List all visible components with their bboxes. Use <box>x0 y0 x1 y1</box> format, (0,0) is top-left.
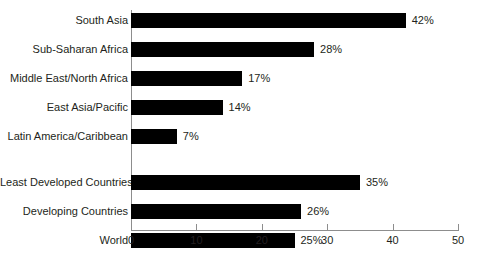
category-label: East Asia/Pacific <box>0 100 128 115</box>
bar-value-label: 7% <box>177 129 199 144</box>
bar-value-label: 17% <box>242 71 270 86</box>
bar-row: 25% <box>131 233 458 248</box>
category-label: Developing Countries <box>0 204 128 219</box>
category-label: Latin America/Caribbean <box>0 129 128 144</box>
x-axis-tick-label: 30 <box>321 234 333 246</box>
bar-value-label: 14% <box>223 100 251 115</box>
x-axis-tick-label: 0 <box>128 234 134 246</box>
bar <box>131 71 242 86</box>
bar <box>131 233 295 248</box>
category-label: World <box>0 233 128 248</box>
bar <box>131 100 223 115</box>
category-label: Middle East/North Africa <box>0 71 128 86</box>
bar <box>131 42 314 57</box>
category-label: Least Developed Countries <box>0 175 128 190</box>
bar <box>131 204 301 219</box>
bar <box>131 13 406 28</box>
plot-area: 42%28%17%14%7%35%26%25% <box>131 10 458 230</box>
bar-row: 35% <box>131 175 458 190</box>
bar-value-label: 25% <box>295 233 323 248</box>
bar-row: 17% <box>131 71 458 86</box>
bar-value-label: 26% <box>301 204 329 219</box>
bar-row: 14% <box>131 100 458 115</box>
bar-row: 26% <box>131 204 458 219</box>
bar-value-label: 35% <box>360 175 388 190</box>
x-axis-tick-label: 20 <box>256 234 268 246</box>
x-axis-tick-label: 40 <box>386 234 398 246</box>
bar <box>131 129 177 144</box>
category-label-column: South AsiaSub-Saharan AfricaMiddle East/… <box>0 10 128 230</box>
bar-value-label: 42% <box>406 13 434 28</box>
bar-row: 42% <box>131 13 458 28</box>
bar <box>131 175 360 190</box>
bar-row: 7% <box>131 129 458 144</box>
bar-row: 28% <box>131 42 458 57</box>
bar-value-label: 28% <box>314 42 342 57</box>
x-axis-line <box>131 230 459 231</box>
x-axis-tick-label: 10 <box>190 234 202 246</box>
bar-chart: South AsiaSub-Saharan AfricaMiddle East/… <box>0 0 477 258</box>
category-label: Sub-Saharan Africa <box>0 42 128 57</box>
x-axis-tick-label: 50 <box>452 234 464 246</box>
category-label: South Asia <box>0 13 128 28</box>
